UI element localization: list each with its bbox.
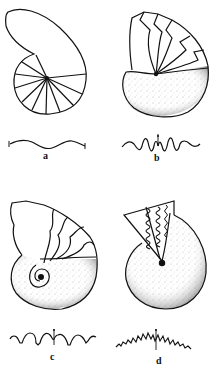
suture-b — [122, 138, 200, 151]
shell-c-illustration — [0, 185, 110, 374]
suture-d — [116, 333, 191, 349]
shell-d-illustration — [110, 185, 219, 374]
panel-label-c: c — [50, 351, 54, 362]
panel-label-d: d — [156, 355, 162, 366]
panel-c: c — [0, 185, 110, 374]
panel-a: a — [0, 0, 110, 185]
panel-label-b: b — [154, 152, 160, 163]
panel-d: d — [110, 185, 219, 374]
panel-b: b — [110, 0, 219, 185]
suture-a — [10, 140, 85, 148]
suture-c — [10, 333, 96, 345]
panel-label-a: a — [43, 150, 48, 161]
shell-b-illustration — [110, 0, 219, 185]
shell-a-illustration — [0, 0, 110, 185]
